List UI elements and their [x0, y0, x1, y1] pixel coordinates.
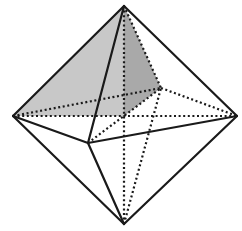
octahedron-diagram [0, 0, 242, 231]
hidden-edge-back-right [161, 88, 237, 116]
hidden-edges [13, 6, 237, 224]
edge-bottom-left [13, 116, 124, 224]
edge-left-front [13, 116, 88, 143]
edge-bottom-front [88, 143, 124, 224]
shaded-tetrahedron [13, 6, 161, 116]
edge-front-right [88, 116, 237, 143]
edge-bottom-right [124, 116, 237, 224]
